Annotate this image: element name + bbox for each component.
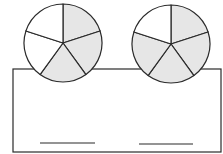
answer-box [13, 69, 221, 152]
fraction-diagram [0, 0, 223, 154]
right-fraction-circle [132, 5, 210, 83]
left-fraction-circle [24, 4, 102, 82]
